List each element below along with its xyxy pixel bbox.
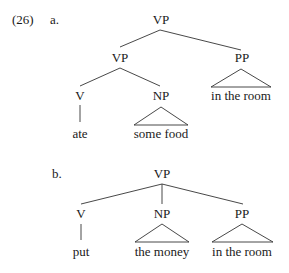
tree-b-pp-text: in the room (212, 244, 272, 259)
edge-root-to-pp (160, 30, 241, 50)
pp-triangle (212, 224, 273, 242)
tree-a-np: NP (153, 88, 170, 103)
tree-a-np-text: some food (134, 126, 189, 141)
tree-a-pp: PP (235, 50, 249, 65)
tree-b-np: NP (154, 206, 171, 221)
syntax-tree-figure: (26) a. VP VP PP in the room V NP ate so… (0, 0, 289, 273)
tree-a-v-text: ate (72, 126, 87, 141)
tree-b-v: V (76, 206, 86, 221)
edge-root-to-v (81, 184, 162, 204)
edge-vp-to-v (80, 68, 120, 86)
tree-a-inner-vp: VP (112, 50, 129, 65)
tree-a-pp-text: in the room (211, 88, 271, 103)
tree-b-pp: PP (235, 206, 249, 221)
tree-b-v-text: put (73, 244, 90, 259)
subexample-b-label: b. (52, 166, 62, 181)
example-number: (26) (12, 12, 34, 27)
tree-a-v: V (75, 88, 85, 103)
edge-root-to-pp (162, 184, 243, 204)
edge-vp-to-np (120, 68, 160, 86)
pp-triangle (211, 69, 271, 87)
tree-a: VP VP PP in the room V NP ate some food (72, 12, 271, 141)
edge-root-to-vp (120, 30, 160, 47)
tree-b-root-vp: VP (154, 166, 171, 181)
subexample-a-label: a. (50, 12, 59, 27)
tree-b: VP V NP PP put the money in the room (73, 166, 273, 259)
np-triangle (135, 224, 189, 242)
tree-b-np-text: the money (135, 244, 190, 259)
np-triangle (134, 107, 188, 125)
tree-a-root-vp: VP (153, 12, 170, 27)
